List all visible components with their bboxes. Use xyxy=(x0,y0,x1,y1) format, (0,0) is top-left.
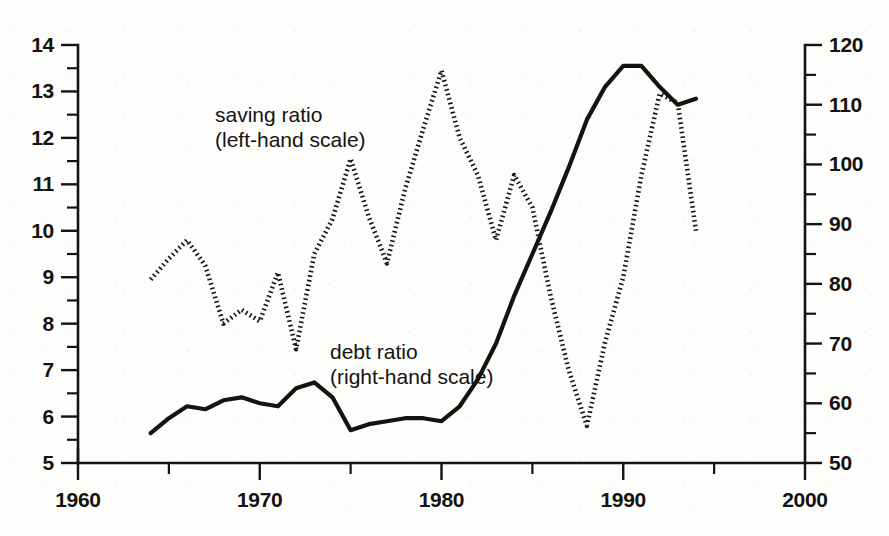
bottom-axis-ticklabels: 19601970198019902000 xyxy=(55,488,828,511)
right-ticklabel: 110 xyxy=(829,93,862,116)
left-ticklabel: 14 xyxy=(31,33,54,56)
left-axis: 567891011121314 xyxy=(31,33,78,474)
right-ticklabel: 90 xyxy=(829,212,852,235)
annotation-debt-ratio: debt ratio (right-hand scale) xyxy=(330,340,493,388)
chart-figure: 567891011121314 5060708090100110120 1960… xyxy=(0,0,889,536)
bottom-axis: 19601970198019902000 xyxy=(55,448,828,511)
right-ticklabel: 100 xyxy=(829,152,863,175)
left-ticklabel: 11 xyxy=(32,172,54,195)
left-ticklabel: 9 xyxy=(43,265,54,288)
bottom-ticklabel: 1960 xyxy=(55,488,101,511)
left-ticklabel: 7 xyxy=(43,358,54,381)
right-ticklabel: 60 xyxy=(829,391,852,414)
right-axis-ticklabels: 5060708090100110120 xyxy=(829,33,863,474)
annotation-saving-line1: saving ratio xyxy=(215,103,322,126)
right-ticklabel: 80 xyxy=(829,272,852,295)
left-axis-ticks xyxy=(61,45,78,463)
left-ticklabel: 8 xyxy=(43,312,55,335)
bottom-ticklabel: 1970 xyxy=(237,488,283,511)
bottom-ticklabel: 2000 xyxy=(782,488,828,511)
annotation-debt-line1: debt ratio xyxy=(330,340,418,363)
saving-and-debt-ratio-chart: 567891011121314 5060708090100110120 1960… xyxy=(0,0,889,536)
annotation-debt-line2: (right-hand scale) xyxy=(330,365,493,388)
right-ticklabel: 120 xyxy=(829,33,863,56)
bottom-ticklabel: 1990 xyxy=(600,488,646,511)
bottom-ticklabel: 1980 xyxy=(419,488,465,511)
right-ticklabel: 50 xyxy=(829,451,852,474)
left-ticklabel: 5 xyxy=(43,451,55,474)
annotation-saving-ratio: saving ratio (left-hand scale) xyxy=(215,103,366,151)
right-ticklabel: 70 xyxy=(829,332,852,355)
right-axis-ticks xyxy=(805,45,822,463)
annotation-saving-line2: (left-hand scale) xyxy=(215,128,366,151)
left-ticklabel: 10 xyxy=(31,219,54,242)
left-ticklabel: 13 xyxy=(31,79,54,102)
left-axis-ticklabels: 567891011121314 xyxy=(31,33,54,474)
left-ticklabel: 12 xyxy=(31,126,54,149)
left-ticklabel: 6 xyxy=(43,405,54,428)
right-axis: 5060708090100110120 xyxy=(805,33,863,474)
